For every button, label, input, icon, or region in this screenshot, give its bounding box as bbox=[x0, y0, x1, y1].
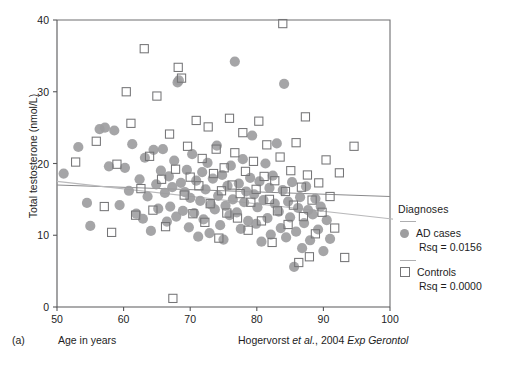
data-point-control bbox=[341, 253, 349, 261]
data-point-control bbox=[92, 137, 100, 145]
legend-rsq-controls: Rsq = 0.0000 bbox=[419, 280, 508, 292]
data-point-ad-case bbox=[287, 177, 297, 187]
data-point-control bbox=[273, 207, 281, 215]
legend-item-ad-cases[interactable]: AD cases bbox=[398, 227, 508, 239]
data-point-control bbox=[287, 167, 295, 175]
data-point-control bbox=[295, 258, 303, 266]
data-point-control bbox=[161, 223, 169, 231]
data-point-control bbox=[225, 114, 233, 122]
data-point-control bbox=[233, 214, 241, 222]
data-point-ad-case bbox=[325, 234, 335, 244]
data-point-control bbox=[311, 230, 319, 238]
data-point-control bbox=[315, 179, 323, 187]
data-point-control bbox=[189, 210, 197, 218]
x-tick-label: 100 bbox=[381, 313, 399, 325]
data-point-control bbox=[206, 200, 214, 208]
panel-letter: (a) bbox=[12, 334, 25, 346]
data-point-control bbox=[271, 177, 279, 185]
legend-item-controls[interactable]: Controls bbox=[398, 266, 508, 278]
data-point-ad-case bbox=[176, 178, 186, 188]
x-tick-label: 70 bbox=[184, 313, 196, 325]
legend-label-controls: Controls bbox=[417, 266, 456, 278]
data-point-ad-case bbox=[279, 79, 289, 89]
data-point-control bbox=[186, 173, 194, 181]
data-point-control bbox=[303, 171, 311, 179]
data-point-control bbox=[223, 209, 231, 217]
data-point-control bbox=[247, 198, 255, 206]
data-point-control bbox=[140, 45, 148, 53]
data-point-control bbox=[252, 185, 260, 193]
x-axis-title: Age in years bbox=[58, 334, 116, 346]
citation: Hogervorst et al., 2004 Exp Gerontol bbox=[238, 334, 408, 346]
data-point-control bbox=[149, 206, 157, 214]
y-tick-label: 0 bbox=[43, 301, 49, 313]
x-tick-label: 90 bbox=[318, 313, 330, 325]
data-point-control bbox=[192, 116, 200, 124]
data-point-control bbox=[209, 169, 217, 177]
data-point-ad-case bbox=[184, 222, 194, 232]
citation-etal: et al. bbox=[292, 334, 315, 346]
data-point-control bbox=[268, 238, 276, 246]
filled-circle-icon bbox=[400, 229, 409, 238]
data-point-control bbox=[217, 187, 225, 195]
data-point-control bbox=[195, 182, 203, 190]
data-point-ad-case bbox=[230, 57, 240, 67]
data-point-control bbox=[241, 167, 249, 175]
data-point-control bbox=[297, 183, 305, 191]
data-point-control bbox=[289, 201, 297, 209]
data-point-ad-case bbox=[281, 232, 291, 242]
data-point-control bbox=[177, 74, 185, 82]
data-point-control bbox=[145, 152, 153, 160]
data-point-ad-case bbox=[85, 221, 95, 231]
figure-panel: 5060708090100010203040 Total testosteron… bbox=[0, 0, 508, 372]
data-point-ad-case bbox=[59, 168, 69, 178]
data-point-ad-case bbox=[195, 196, 205, 206]
data-point-control bbox=[100, 202, 108, 210]
data-point-control bbox=[201, 218, 209, 226]
data-point-control bbox=[137, 185, 145, 193]
data-point-control bbox=[331, 224, 339, 232]
x-tick-label: 80 bbox=[251, 313, 263, 325]
data-point-ad-case bbox=[146, 226, 156, 236]
data-point-control bbox=[284, 220, 292, 228]
data-point-ad-case bbox=[73, 142, 83, 152]
data-point-ad-case bbox=[100, 123, 110, 133]
x-tick-label: 50 bbox=[51, 313, 63, 325]
data-point-control bbox=[183, 142, 191, 150]
data-point-control bbox=[244, 226, 252, 234]
data-point-control bbox=[350, 142, 358, 150]
data-point-control bbox=[108, 228, 116, 236]
y-tick-label: 40 bbox=[37, 14, 49, 26]
data-point-control bbox=[292, 139, 300, 147]
data-point-control bbox=[257, 217, 265, 225]
data-point-control bbox=[299, 213, 307, 221]
data-point-control bbox=[220, 164, 228, 172]
legend-title: Diagnoses bbox=[398, 203, 508, 215]
data-point-control bbox=[239, 129, 247, 137]
data-point-control bbox=[131, 211, 139, 219]
data-point-control bbox=[265, 195, 273, 203]
data-point-control bbox=[326, 192, 334, 200]
data-point-ad-case bbox=[308, 209, 318, 219]
data-point-ad-case bbox=[178, 206, 188, 216]
data-point-control bbox=[174, 63, 182, 71]
legend-divider-1 bbox=[400, 221, 416, 222]
data-point-control bbox=[335, 169, 343, 177]
data-point-ad-case bbox=[247, 130, 257, 140]
data-point-control bbox=[308, 196, 316, 204]
data-point-ad-case bbox=[134, 174, 144, 184]
data-point-ad-case bbox=[272, 138, 282, 148]
data-point-ad-case bbox=[167, 182, 177, 192]
citation-year: , 2004 bbox=[315, 334, 347, 346]
legend: Diagnoses AD cases Rsq = 0.0156 Controls… bbox=[398, 203, 508, 299]
data-point-control bbox=[322, 156, 330, 164]
data-point-ad-case bbox=[169, 156, 179, 166]
data-point-control bbox=[171, 165, 179, 173]
data-point-control bbox=[212, 145, 220, 153]
data-point-control bbox=[231, 149, 239, 157]
citation-journal: Exp Gerontol bbox=[347, 334, 408, 346]
data-point-control bbox=[180, 191, 188, 199]
data-point-control bbox=[127, 119, 135, 127]
data-point-ad-case bbox=[82, 198, 92, 208]
data-point-control bbox=[198, 154, 206, 162]
